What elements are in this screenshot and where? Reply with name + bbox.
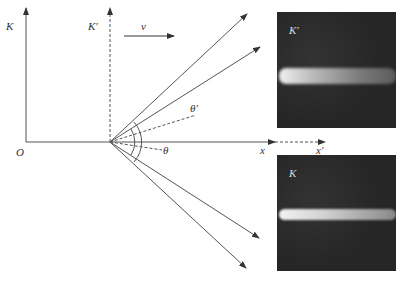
ray-lower-inner: [110, 142, 259, 238]
ray-upper-inner: [110, 47, 260, 142]
beam-narrow: [279, 209, 396, 220]
beam-wide: [279, 68, 396, 84]
origin-label: O: [16, 146, 24, 158]
theta-prime-label: θ': [190, 102, 198, 114]
ray-lower-outer: [110, 142, 246, 268]
x-axis-label: x: [260, 144, 265, 156]
frame-k-prime-label: K': [88, 20, 98, 32]
frame-k-label: K: [6, 20, 13, 32]
photo-k-label: K: [289, 167, 296, 179]
ray-upper-outer: [110, 14, 247, 142]
theta-prime-line: [110, 115, 196, 142]
theta-label: θ: [163, 144, 168, 156]
photo-k-frame: K: [277, 155, 396, 271]
photo-k-prime-label: K': [289, 24, 299, 36]
velocity-label: v: [141, 20, 146, 32]
photo-k-prime-frame: K': [277, 12, 396, 128]
